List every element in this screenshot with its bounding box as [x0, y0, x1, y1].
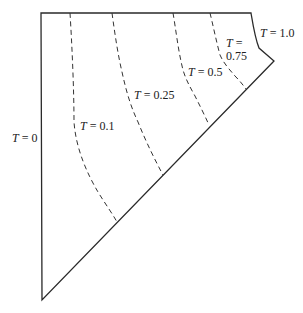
label-t-0.5: T = 0.5 [188, 65, 222, 79]
isotherm-diagram: T = 0 T = 1.0 T = 0.1 T = 0.25 T = 0.5 T… [0, 0, 303, 313]
label-t-0.75-line2: 0.75 [226, 49, 247, 63]
isotherm-0.1 [70, 13, 117, 222]
label-t-0.75-line1: T = [226, 36, 243, 50]
label-t-0.25: T = 0.25 [134, 88, 174, 102]
label-t-0.1: T = 0.1 [80, 119, 114, 133]
label-t-1.0: T = 1.0 [260, 26, 294, 40]
label-t-0: T = 0 [12, 131, 37, 145]
